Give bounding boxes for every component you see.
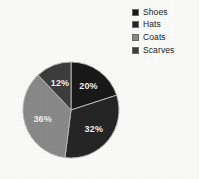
legend-item-hats[interactable]: Hats xyxy=(132,19,198,32)
legend-swatch-shoes xyxy=(132,9,139,16)
legend-swatch-hats xyxy=(132,21,139,28)
pie-chart-figure: 20%32%36%12% Shoes Hats Coats Scarves xyxy=(0,0,199,179)
legend-label-scarves: Scarves xyxy=(143,46,174,55)
legend-item-scarves[interactable]: Scarves xyxy=(132,44,198,57)
pie-slice-group xyxy=(23,62,119,158)
legend-label-shoes: Shoes xyxy=(143,8,168,17)
chart-legend: Shoes Hats Coats Scarves xyxy=(132,6,198,56)
pie-slice-value-hats: 32% xyxy=(85,124,104,134)
legend-item-coats[interactable]: Coats xyxy=(132,31,198,44)
legend-label-coats: Coats xyxy=(143,33,166,42)
legend-label-hats: Hats xyxy=(143,20,161,29)
pie-slice-value-shoes: 20% xyxy=(79,81,98,91)
legend-swatch-coats xyxy=(132,34,139,41)
pie-slice-value-scarves: 12% xyxy=(51,78,70,88)
pie-slice-value-coats: 36% xyxy=(33,114,52,124)
pie-chart-plot-area: 20%32%36%12% xyxy=(0,0,132,179)
legend-item-shoes[interactable]: Shoes xyxy=(132,6,198,19)
pie-svg: 20%32%36%12% xyxy=(0,0,132,179)
legend-swatch-scarves xyxy=(132,47,139,54)
